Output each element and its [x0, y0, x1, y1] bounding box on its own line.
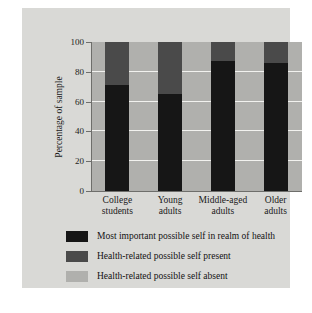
y-axis-tick — [86, 131, 91, 132]
x-axis-label-line: students — [91, 206, 144, 217]
bar-stack — [158, 42, 182, 191]
x-axis-label-line: adults — [249, 206, 302, 217]
bar-segment — [105, 42, 129, 85]
x-axis-label-line: College — [91, 195, 144, 206]
y-axis-tick-label: 40 — [75, 127, 84, 136]
bar-segment — [264, 42, 288, 63]
bar-stack — [211, 42, 235, 191]
x-axis-tick-label: Collegestudents — [91, 195, 144, 216]
y-axis-tick-label: 80 — [75, 67, 84, 76]
y-axis: 020406080100 — [91, 42, 92, 191]
legend-item[interactable]: Most important possible self in realm of… — [66, 228, 281, 244]
x-axis-tick-label: Middle-agedadults — [197, 195, 250, 216]
legend-swatch — [66, 251, 88, 262]
legend-item[interactable]: Health-related possible self present — [66, 248, 281, 264]
y-axis-title: Percentage of sample — [52, 42, 66, 191]
bar-segment — [211, 61, 235, 191]
legend-swatch — [66, 271, 88, 282]
bar-segment — [105, 85, 129, 191]
bar-stack — [105, 42, 129, 191]
y-axis-tick-label: 100 — [71, 38, 85, 47]
legend-swatch — [66, 231, 88, 242]
x-axis-tick-label: Olderadults — [249, 195, 302, 216]
bar-segment — [211, 42, 235, 61]
chart-legend: Most important possible self in realm of… — [66, 228, 281, 288]
bar-segment — [158, 94, 182, 191]
y-axis-tick-label: 60 — [75, 97, 84, 106]
chart-figure: Percentage of sample 020406080100 Colleg… — [0, 0, 312, 313]
y-axis-tick — [86, 42, 91, 43]
y-axis-tick — [86, 161, 91, 162]
y-axis-tick-label: 20 — [75, 157, 84, 166]
y-axis-title-label: Percentage of sample — [54, 76, 64, 157]
plot-area — [91, 42, 302, 191]
y-axis-tick — [86, 102, 91, 103]
x-axis-tick-label: Youngadults — [144, 195, 197, 216]
legend-item[interactable]: Health-related possible self absent — [66, 268, 281, 284]
x-axis — [91, 191, 302, 192]
legend-label: Health-related possible self absent — [97, 271, 228, 282]
y-axis-tick-label: 0 — [80, 187, 85, 196]
x-axis-label-line: Young — [144, 195, 197, 206]
y-axis-tick — [86, 72, 91, 73]
bar-segment — [158, 42, 182, 94]
bar-segment — [264, 63, 288, 191]
bar-stack — [264, 42, 288, 191]
x-axis-label-line: adults — [197, 206, 250, 217]
x-axis-label-line: adults — [144, 206, 197, 217]
x-axis-label-line: Older — [249, 195, 302, 206]
x-axis-label-line: Middle-aged — [197, 195, 250, 206]
legend-label: Health-related possible self present — [97, 251, 231, 262]
legend-label: Most important possible self in realm of… — [97, 231, 275, 242]
